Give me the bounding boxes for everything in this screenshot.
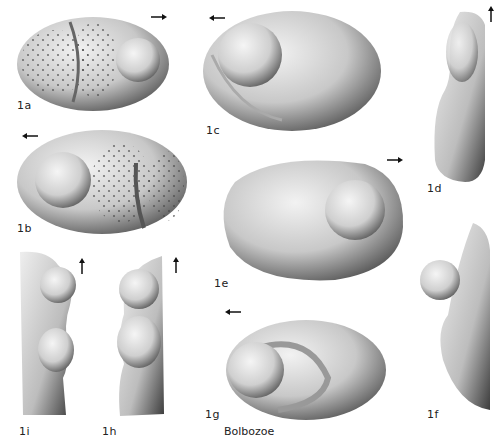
arrow-up-icon bbox=[173, 257, 179, 273]
figure-label-1c: 1c bbox=[206, 124, 220, 137]
arrow-up-icon bbox=[488, 6, 494, 22]
figure-1d bbox=[430, 10, 490, 185]
arrow-right-icon bbox=[151, 14, 167, 20]
figure-1f bbox=[418, 220, 493, 415]
figure-1a bbox=[15, 12, 170, 112]
arrow-left-icon bbox=[209, 15, 225, 21]
ostracod-lateral-view-illustration bbox=[215, 152, 405, 284]
ostracod-dorsal-view-illustration bbox=[418, 220, 493, 415]
arrow-right-icon bbox=[387, 157, 403, 163]
figure-label-1d: 1d bbox=[427, 182, 442, 195]
plate-caption: Bolbozoe bbox=[224, 425, 274, 438]
figure-label-1h: 1h bbox=[102, 425, 117, 438]
ostracod-lateral-view-illustration bbox=[15, 12, 170, 112]
figure-label-1g: 1g bbox=[205, 408, 220, 421]
ostracod-oblique-view-illustration bbox=[218, 318, 388, 423]
figure-label-1f: 1f bbox=[427, 408, 439, 421]
ostracod-end-view-illustration bbox=[18, 250, 78, 420]
figure-1g bbox=[218, 318, 388, 423]
figure-label-1a: 1a bbox=[17, 99, 32, 112]
ostracod-dorsal-view-illustration bbox=[430, 10, 490, 185]
figure-label-1i: 1i bbox=[19, 425, 30, 438]
arrow-up-icon bbox=[79, 258, 85, 274]
ostracod-lateral-view-illustration bbox=[202, 10, 382, 132]
figure-label-1e: 1e bbox=[214, 277, 229, 290]
figure-1i bbox=[18, 250, 78, 420]
figure-1c bbox=[202, 10, 382, 132]
ostracod-lateral-view-illustration bbox=[16, 128, 188, 238]
figure-label-1b: 1b bbox=[17, 222, 32, 235]
figure-1e bbox=[215, 152, 405, 284]
ostracod-end-view-illustration bbox=[112, 254, 167, 419]
figure-1b bbox=[16, 128, 188, 238]
arrow-left-icon bbox=[225, 309, 241, 315]
figure-1h bbox=[112, 254, 167, 419]
arrow-left-icon bbox=[22, 133, 38, 139]
